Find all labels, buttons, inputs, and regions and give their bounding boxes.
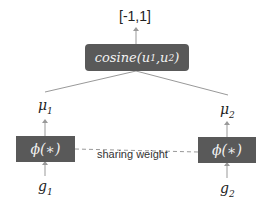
- g1-symbol: g: [38, 178, 47, 194]
- cosine-arg1-sub: 1: [150, 53, 156, 63]
- cosine-func: cosine: [95, 50, 137, 65]
- mu1-symbol: μ: [38, 97, 47, 113]
- sharing-weight-label: sharing weight: [97, 148, 168, 160]
- line-cos-to-mu1: [45, 71, 136, 92]
- mu2-symbol: μ: [220, 101, 229, 117]
- cosine-arg1: u: [142, 50, 150, 65]
- arrowhead-mu2: [224, 121, 230, 125]
- line-cos-to-mu2: [136, 71, 228, 95]
- mu1-sub: 1: [47, 106, 53, 116]
- g2-sub: 2: [229, 189, 235, 199]
- g2-label: g2: [220, 180, 235, 199]
- g2-symbol: g: [220, 180, 229, 196]
- mu1-label: μ1: [38, 97, 53, 116]
- arrowhead-output: [133, 27, 139, 31]
- cosine-box: cosine(u1,u2): [85, 44, 189, 71]
- mu2-label: μ2: [220, 101, 235, 120]
- cosine-arg2-sub: 2: [168, 53, 174, 63]
- arrowhead-mu1: [42, 119, 48, 123]
- g1-sub: 1: [47, 187, 53, 197]
- phi-box-left: ϕ(∗): [16, 136, 75, 162]
- output-range-label: [-1,1]: [119, 8, 151, 24]
- mu2-sub: 2: [229, 110, 235, 120]
- phi-box-right: ϕ(∗): [198, 137, 256, 163]
- g1-label: g1: [38, 178, 53, 197]
